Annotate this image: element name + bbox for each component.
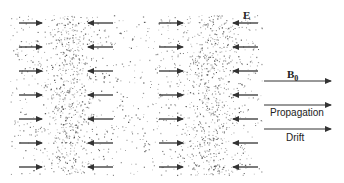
legend-arrows (264, 81, 331, 129)
diagram-canvas (0, 0, 344, 183)
electric-field-arrows (19, 23, 258, 167)
plasma-density-speckle (10, 15, 263, 176)
drift-label: Drift (286, 132, 304, 143)
b0-subscript: 0 (294, 74, 298, 83)
electric-field-label: E (243, 10, 250, 21)
b0-label: B0 (287, 69, 298, 84)
propagation-label: Propagation (270, 107, 324, 118)
